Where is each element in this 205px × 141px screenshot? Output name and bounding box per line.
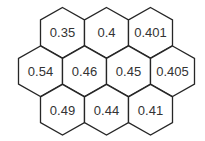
hex-value-label: 0.405 xyxy=(156,64,189,79)
hex-grid-diagram: 0.35 0.4 0.401 0.54 0.46 0.45 0.405 0.49… xyxy=(0,0,205,141)
hex-value-label: 0.54 xyxy=(28,64,53,79)
hex-value-label: 0.401 xyxy=(134,25,167,40)
hex-value-label: 0.35 xyxy=(50,25,75,40)
hex-value-label: 0.4 xyxy=(97,25,115,40)
hex-value-label: 0.44 xyxy=(94,103,119,118)
hex-value-label: 0.45 xyxy=(116,64,141,79)
hex-value-label: 0.49 xyxy=(50,103,75,118)
hex-value-label: 0.41 xyxy=(138,103,163,118)
hex-value-label: 0.46 xyxy=(72,64,97,79)
